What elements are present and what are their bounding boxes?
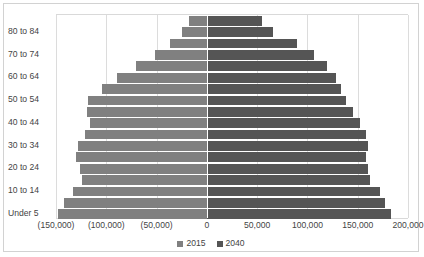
legend-item-2015[interactable]: 2015: [177, 239, 205, 248]
bar-2015: [182, 27, 207, 37]
legend-item-2040[interactable]: 2040: [217, 239, 245, 248]
bar-2015: [78, 141, 207, 151]
bar-2040: [207, 118, 360, 128]
x-tick-label: 100,000: [292, 221, 323, 230]
bar-2040: [207, 152, 366, 162]
x-tick-label: 50,000: [244, 221, 270, 230]
bar-2040: [207, 73, 336, 83]
legend-label: 2015: [186, 239, 205, 248]
bar-2015: [76, 152, 207, 162]
y-tick-label: 60 to 64: [8, 72, 56, 81]
bar-row: [56, 16, 408, 26]
bar-row: [56, 84, 408, 94]
x-tick-label: (150,000): [38, 221, 75, 230]
bar-2040: [207, 39, 298, 49]
bar-row: [56, 164, 408, 174]
bar-2015: [58, 209, 207, 219]
bar-row: [56, 175, 408, 185]
bar-2040: [207, 198, 385, 208]
bar-2015: [170, 39, 207, 49]
x-tick-label: (50,000): [141, 221, 173, 230]
y-tick-label: 10 to 14: [8, 186, 56, 195]
bar-2040: [207, 84, 341, 94]
x-tick-label: (100,000): [88, 221, 125, 230]
bar-2015: [80, 164, 207, 174]
x-tick-label: 150,000: [342, 221, 373, 230]
bar-2015: [189, 16, 207, 26]
bar-2015: [82, 175, 207, 185]
bar-2015: [88, 96, 207, 106]
bar-2015: [87, 107, 207, 117]
y-tick-label: Under 5: [8, 209, 56, 218]
bar-2040: [207, 96, 346, 106]
bar-2040: [207, 107, 353, 117]
bar-2040: [207, 175, 370, 185]
x-tick-label: 200,000: [392, 221, 423, 230]
legend-label: 2040: [226, 239, 245, 248]
bar-2040: [207, 164, 368, 174]
bar-2015: [117, 73, 207, 83]
y-tick-label: 50 to 54: [8, 95, 56, 104]
bar-row: [56, 50, 408, 60]
bar-row: [56, 96, 408, 106]
population-pyramid-chart: Under 510 to 1420 to 2430 to 3440 to 445…: [3, 3, 419, 252]
bar-2015: [155, 50, 207, 60]
bar-row: [56, 118, 408, 128]
y-tick-label: 80 to 84: [8, 27, 56, 36]
y-tick-label: 70 to 74: [8, 50, 56, 59]
bar-row: [56, 73, 408, 83]
bar-2015: [90, 118, 207, 128]
bar-row: [56, 61, 408, 71]
y-tick-label: 20 to 24: [8, 163, 56, 172]
legend-swatch-icon: [177, 241, 183, 247]
x-tick-label: 0: [204, 221, 209, 230]
bar-2040: [207, 61, 327, 71]
x-axis-tick-labels: (150,000)(100,000)(50,000)050,000100,000…: [56, 221, 408, 234]
bar-row: [56, 27, 408, 37]
bar-2040: [207, 130, 366, 140]
bar-row: [56, 39, 408, 49]
bar-row: [56, 187, 408, 197]
bar-2040: [207, 50, 315, 60]
bar-2015: [102, 84, 207, 94]
y-axis-category-labels: Under 510 to 1420 to 2430 to 3440 to 445…: [8, 14, 56, 219]
bars-layer: [56, 15, 408, 218]
bar-row: [56, 107, 408, 117]
bar-2040: [207, 187, 380, 197]
bar-2015: [73, 187, 207, 197]
bar-row: [56, 209, 408, 219]
bar-2040: [207, 16, 262, 26]
y-tick-label: 30 to 34: [8, 141, 56, 150]
bar-2015: [85, 130, 207, 140]
gridline: [408, 15, 409, 218]
bar-2015: [64, 198, 207, 208]
bar-2040: [207, 141, 368, 151]
bar-row: [56, 198, 408, 208]
chart-legend: 20152040: [4, 237, 418, 250]
bar-2015: [136, 61, 206, 71]
bar-2040: [207, 209, 391, 219]
legend-swatch-icon: [217, 241, 223, 247]
bar-2040: [207, 27, 273, 37]
y-tick-label: 40 to 44: [8, 118, 56, 127]
gridline-zero: [207, 15, 208, 218]
bar-row: [56, 141, 408, 151]
bar-row: [56, 130, 408, 140]
plot-area: [56, 14, 408, 219]
bar-row: [56, 152, 408, 162]
